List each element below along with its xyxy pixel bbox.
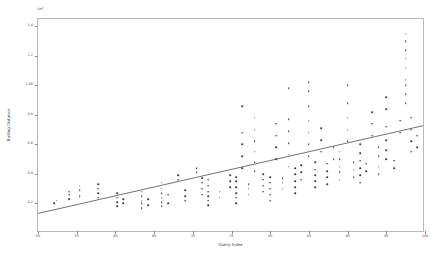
data-point	[177, 175, 179, 177]
data-point	[405, 102, 407, 104]
data-point	[339, 151, 341, 153]
data-point	[116, 197, 118, 199]
data-point	[196, 167, 198, 169]
data-point	[235, 203, 237, 205]
data-point	[359, 160, 361, 162]
data-point	[53, 203, 55, 205]
data-point	[288, 119, 290, 121]
data-point	[207, 185, 209, 187]
data-point	[68, 194, 70, 196]
data-point	[359, 182, 361, 184]
x-tick-label: 50	[36, 235, 40, 238]
data-point	[235, 181, 237, 183]
y-tick-mark	[35, 26, 38, 27]
y-tick-mark	[35, 115, 38, 116]
data-point	[116, 201, 118, 203]
data-point	[308, 120, 310, 122]
data-point	[201, 178, 203, 180]
y-tick-label: 1.2	[28, 54, 33, 57]
data-point	[248, 188, 250, 190]
data-point	[347, 129, 349, 131]
y-tick-label: 1.00	[25, 84, 33, 87]
data-point	[242, 132, 244, 134]
data-point	[300, 172, 302, 174]
data-point	[339, 179, 341, 181]
data-point	[184, 195, 186, 197]
y-tick-mark	[35, 85, 38, 86]
data-point	[359, 175, 361, 177]
data-point	[161, 201, 163, 203]
data-point	[269, 194, 271, 196]
data-point	[269, 200, 271, 202]
x-tick-label: 100	[422, 235, 428, 238]
data-point	[262, 185, 264, 187]
data-point	[308, 91, 310, 93]
data-point	[141, 200, 143, 202]
data-point	[378, 173, 380, 175]
data-point	[300, 164, 302, 166]
data-point	[372, 111, 374, 113]
data-point	[405, 40, 407, 42]
x-axis-label: Query Index	[37, 243, 424, 247]
data-point	[386, 108, 388, 110]
data-point	[314, 181, 316, 183]
data-point	[399, 132, 401, 134]
data-point	[288, 130, 290, 132]
y-tick-label: 0.8	[28, 113, 33, 116]
data-point	[327, 170, 329, 172]
x-tick-label: 80	[268, 235, 272, 238]
data-point	[288, 166, 290, 168]
data-point	[386, 139, 388, 141]
data-point	[353, 161, 355, 163]
data-point	[288, 142, 290, 144]
data-point	[378, 155, 380, 157]
data-point	[359, 167, 361, 169]
data-point	[235, 176, 237, 178]
data-point	[405, 85, 407, 87]
data-point	[262, 179, 264, 181]
y-axis-offset-label: 1e7	[37, 8, 44, 12]
y-tick-label: 0.6	[28, 143, 33, 146]
data-point	[254, 117, 256, 119]
data-point	[405, 93, 407, 95]
data-point	[201, 182, 203, 184]
y-tick-mark	[35, 56, 38, 57]
data-point	[207, 179, 209, 181]
data-point	[314, 175, 316, 177]
data-point	[410, 117, 412, 119]
data-point	[308, 144, 310, 146]
data-point	[141, 191, 143, 193]
data-point	[141, 207, 143, 209]
data-point	[122, 198, 124, 200]
data-point	[276, 147, 278, 149]
x-tick-label: 70	[191, 235, 195, 238]
data-point	[365, 163, 367, 165]
data-point	[201, 194, 203, 196]
data-point	[161, 197, 163, 199]
data-point	[161, 182, 163, 184]
data-point	[207, 195, 209, 197]
data-point	[254, 151, 256, 153]
data-point	[254, 161, 256, 163]
data-point	[161, 188, 163, 190]
data-point	[386, 158, 388, 160]
data-point	[314, 161, 316, 163]
data-point	[242, 167, 244, 169]
data-point	[98, 183, 100, 185]
data-point	[399, 120, 401, 122]
data-point	[141, 203, 143, 205]
trendline	[38, 19, 423, 231]
data-point	[219, 197, 221, 199]
data-point	[161, 192, 163, 194]
data-point	[68, 191, 70, 193]
data-point	[314, 169, 316, 171]
x-tick-label: 55	[75, 235, 79, 238]
y-axis-label: Trailing Distance	[7, 108, 11, 141]
data-point	[276, 135, 278, 137]
data-point	[308, 105, 310, 107]
data-point	[327, 183, 329, 185]
data-point	[410, 129, 412, 131]
data-point	[229, 175, 231, 177]
data-point	[308, 82, 310, 84]
y-tick-label: 1.4	[28, 25, 33, 28]
